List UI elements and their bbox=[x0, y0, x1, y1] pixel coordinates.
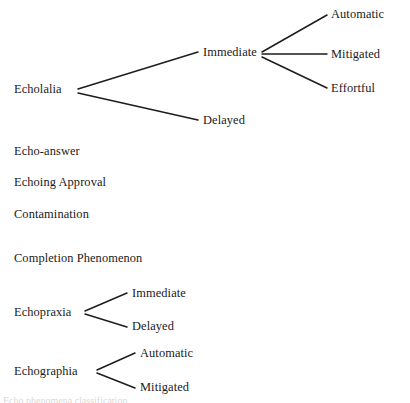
node-immediate-automatic: Automatic bbox=[331, 7, 385, 21]
node-immediate-mitigated: Mitigated bbox=[331, 47, 381, 61]
footer-cutoff-text: Echo phenomena classification bbox=[3, 395, 203, 403]
node-echographia-automatic: Automatic bbox=[140, 346, 194, 360]
edge-echopraxia-delayed bbox=[85, 314, 127, 327]
node-echoing-approval: Echoing Approval bbox=[14, 175, 107, 189]
node-echopraxia-delayed: Delayed bbox=[132, 319, 175, 333]
node-echolalia-immediate: Immediate bbox=[203, 45, 257, 59]
node-immediate-effortful: Effortful bbox=[331, 81, 375, 95]
echographia-tree: Echographia Automatic Mitigated bbox=[14, 346, 194, 394]
node-echolalia-delayed: Delayed bbox=[203, 113, 246, 127]
echolalia-tree: Echolalia Immediate Delayed Automatic Mi… bbox=[14, 7, 385, 127]
edge-echopraxia-immediate bbox=[85, 293, 127, 311]
echopraxia-tree: Echopraxia Immediate Delayed bbox=[14, 286, 186, 333]
edge-echographia-automatic bbox=[97, 353, 135, 370]
node-echopraxia: Echopraxia bbox=[14, 305, 72, 319]
node-completion-phenomenon: Completion Phenomenon bbox=[14, 251, 142, 265]
node-echolalia: Echolalia bbox=[14, 82, 62, 96]
edge-echolalia-immediate bbox=[78, 52, 198, 89]
node-echographia-mitigated: Mitigated bbox=[140, 380, 190, 394]
node-echo-answer: Echo-answer bbox=[14, 144, 81, 158]
node-echopraxia-immediate: Immediate bbox=[132, 286, 186, 300]
node-echographia: Echographia bbox=[14, 364, 78, 378]
echo-phenomena-diagram: Echolalia Immediate Delayed Automatic Mi… bbox=[0, 0, 410, 403]
edge-echographia-mitigated bbox=[97, 373, 135, 388]
edge-immediate-automatic bbox=[262, 15, 327, 52]
diagram-canvas: Echolalia Immediate Delayed Automatic Mi… bbox=[0, 0, 410, 403]
standalone-item-list: Echo-answer Echoing Approval Contaminati… bbox=[14, 144, 142, 265]
node-contamination: Contamination bbox=[14, 207, 89, 221]
edge-immediate-effortful bbox=[262, 57, 327, 88]
edge-echolalia-delayed bbox=[78, 93, 198, 120]
